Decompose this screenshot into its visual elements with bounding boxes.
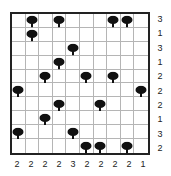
grid-cell-r1-c0[interactable] xyxy=(12,28,26,42)
grid-cell-r3-c5[interactable] xyxy=(80,56,94,70)
grid-cell-r8-c2[interactable] xyxy=(39,125,53,139)
grid-cell-r6-c1[interactable] xyxy=(26,97,40,111)
grid-cell-r3-c2[interactable] xyxy=(39,56,53,70)
grid-cell-r9-c6[interactable] xyxy=(94,139,108,153)
grid-cell-r7-c8[interactable] xyxy=(121,111,135,125)
grid-cell-r7-c1[interactable] xyxy=(26,111,40,125)
grid-cell-r1-c3[interactable] xyxy=(53,28,67,42)
grid-cell-r6-c2[interactable] xyxy=(39,97,53,111)
grid-cell-r5-c1[interactable] xyxy=(26,83,40,97)
grid-cell-r2-c1[interactable] xyxy=(26,42,40,56)
grid-cell-r6-c7[interactable] xyxy=(107,97,121,111)
grid-cell-r7-c5[interactable] xyxy=(80,111,94,125)
grid-cell-r4-c8[interactable] xyxy=(121,70,135,84)
grid-cell-r8-c6[interactable] xyxy=(94,125,108,139)
grid-cell-r2-c9[interactable] xyxy=(134,42,148,56)
grid-cell-r7-c7[interactable] xyxy=(107,111,121,125)
grid-cell-r9-c9[interactable] xyxy=(134,139,148,153)
grid-cell-r1-c2[interactable] xyxy=(39,28,53,42)
grid-cell-r1-c5[interactable] xyxy=(80,28,94,42)
grid-cell-r3-c0[interactable] xyxy=(12,56,26,70)
grid-cell-r3-c6[interactable] xyxy=(94,56,108,70)
grid-cell-r2-c5[interactable] xyxy=(80,42,94,56)
grid-cell-r1-c9[interactable] xyxy=(134,28,148,42)
grid-cell-r9-c7[interactable] xyxy=(107,139,121,153)
grid-cell-r5-c9[interactable] xyxy=(134,83,148,97)
grid-cell-r1-c1[interactable] xyxy=(26,28,40,42)
grid-cell-r0-c4[interactable] xyxy=(66,14,80,28)
grid-cell-r7-c2[interactable] xyxy=(39,111,53,125)
grid-cell-r9-c2[interactable] xyxy=(39,139,53,153)
grid-cell-r4-c5[interactable] xyxy=(80,70,94,84)
grid-cell-r2-c2[interactable] xyxy=(39,42,53,56)
grid-cell-r3-c9[interactable] xyxy=(134,56,148,70)
grid-cell-r0-c6[interactable] xyxy=(94,14,108,28)
grid-cell-r0-c3[interactable] xyxy=(53,14,67,28)
grid-cell-r5-c8[interactable] xyxy=(121,83,135,97)
grid-cell-r6-c3[interactable] xyxy=(53,97,67,111)
grid-cell-r2-c7[interactable] xyxy=(107,42,121,56)
grid-cell-r0-c2[interactable] xyxy=(39,14,53,28)
grid-cell-r5-c7[interactable] xyxy=(107,83,121,97)
grid-cell-r6-c9[interactable] xyxy=(134,97,148,111)
grid-cell-r5-c0[interactable] xyxy=(12,83,26,97)
grid-cell-r6-c5[interactable] xyxy=(80,97,94,111)
grid-cell-r8-c5[interactable] xyxy=(80,125,94,139)
grid-cell-r0-c9[interactable] xyxy=(134,14,148,28)
grid-cell-r7-c9[interactable] xyxy=(134,111,148,125)
grid-cell-r8-c7[interactable] xyxy=(107,125,121,139)
grid-cell-r5-c2[interactable] xyxy=(39,83,53,97)
grid-cell-r5-c6[interactable] xyxy=(94,83,108,97)
grid-cell-r2-c6[interactable] xyxy=(94,42,108,56)
grid-cell-r7-c0[interactable] xyxy=(12,111,26,125)
grid-cell-r5-c5[interactable] xyxy=(80,83,94,97)
grid-cell-r7-c4[interactable] xyxy=(66,111,80,125)
grid-cell-r0-c5[interactable] xyxy=(80,14,94,28)
grid-cell-r3-c7[interactable] xyxy=(107,56,121,70)
grid-cell-r3-c4[interactable] xyxy=(66,56,80,70)
grid-cell-r1-c4[interactable] xyxy=(66,28,80,42)
grid-cell-r6-c0[interactable] xyxy=(12,97,26,111)
grid-cell-r2-c0[interactable] xyxy=(12,42,26,56)
grid-cell-r2-c8[interactable] xyxy=(121,42,135,56)
grid-cell-r6-c6[interactable] xyxy=(94,97,108,111)
grid-cell-r8-c0[interactable] xyxy=(12,125,26,139)
grid-cell-r4-c7[interactable] xyxy=(107,70,121,84)
grid-cell-r4-c6[interactable] xyxy=(94,70,108,84)
grid-cell-r8-c4[interactable] xyxy=(66,125,80,139)
grid-cell-r8-c8[interactable] xyxy=(121,125,135,139)
grid-cell-r9-c8[interactable] xyxy=(121,139,135,153)
grid-cell-r0-c8[interactable] xyxy=(121,14,135,28)
grid-cell-r1-c6[interactable] xyxy=(94,28,108,42)
grid-cell-r8-c9[interactable] xyxy=(134,125,148,139)
grid-cell-r9-c5[interactable] xyxy=(80,139,94,153)
grid-cell-r9-c3[interactable] xyxy=(53,139,67,153)
grid-cell-r9-c0[interactable] xyxy=(12,139,26,153)
grid-cell-r2-c3[interactable] xyxy=(53,42,67,56)
grid-cell-r4-c4[interactable] xyxy=(66,70,80,84)
grid-cell-r5-c3[interactable] xyxy=(53,83,67,97)
grid-cell-r0-c7[interactable] xyxy=(107,14,121,28)
grid-cell-r1-c7[interactable] xyxy=(107,28,121,42)
grid-cell-r9-c1[interactable] xyxy=(26,139,40,153)
grid-cell-r9-c4[interactable] xyxy=(66,139,80,153)
grid-cell-r8-c3[interactable] xyxy=(53,125,67,139)
grid-cell-r0-c1[interactable] xyxy=(26,14,40,28)
grid-cell-r4-c2[interactable] xyxy=(39,70,53,84)
grid-cell-r4-c0[interactable] xyxy=(12,70,26,84)
grid-cell-r4-c9[interactable] xyxy=(134,70,148,84)
grid-cell-r4-c3[interactable] xyxy=(53,70,67,84)
grid-cell-r7-c6[interactable] xyxy=(94,111,108,125)
grid-cell-r3-c3[interactable] xyxy=(53,56,67,70)
grid-cell-r1-c8[interactable] xyxy=(121,28,135,42)
grid-cell-r6-c8[interactable] xyxy=(121,97,135,111)
grid-cell-r2-c4[interactable] xyxy=(66,42,80,56)
grid-cell-r0-c0[interactable] xyxy=(12,14,26,28)
grid-cell-r6-c4[interactable] xyxy=(66,97,80,111)
grid-cell-r3-c1[interactable] xyxy=(26,56,40,70)
grid-cell-r7-c3[interactable] xyxy=(53,111,67,125)
grid-cell-r8-c1[interactable] xyxy=(26,125,40,139)
grid-cell-r3-c8[interactable] xyxy=(121,56,135,70)
grid-cell-r4-c1[interactable] xyxy=(26,70,40,84)
grid-cell-r5-c4[interactable] xyxy=(66,83,80,97)
